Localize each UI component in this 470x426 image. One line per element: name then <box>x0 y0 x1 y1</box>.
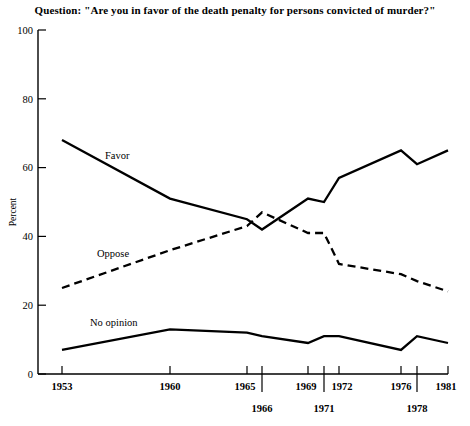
chart-canvas: 0 20 40 60 80 100 Percent 1953 1960 1965… <box>0 0 470 426</box>
y-tick-label-100: 100 <box>17 25 33 36</box>
x-tick-label-1971: 1971 <box>314 403 335 414</box>
x-tick-label-1965: 1965 <box>235 381 256 392</box>
x-tick-label-1976: 1976 <box>391 381 412 392</box>
y-tick-label-40: 40 <box>23 231 34 242</box>
series-label-favor: Favor <box>105 150 130 161</box>
y-axis-title: Percent <box>8 197 18 226</box>
x-tick-label-1960: 1960 <box>160 381 181 392</box>
x-axis-ticks-upper <box>62 366 448 374</box>
series-line-no-opinion <box>62 329 448 350</box>
x-tick-label-1978: 1978 <box>407 403 428 414</box>
y-tick-label-80: 80 <box>23 94 34 105</box>
x-tick-label-1972: 1972 <box>332 381 353 392</box>
x-tick-label-1966: 1966 <box>252 403 273 414</box>
chart-container: Question: "Are you in favor of the death… <box>0 0 470 426</box>
x-tick-label-1953: 1953 <box>52 381 73 392</box>
y-axis-ticks <box>38 30 46 374</box>
y-tick-label-60: 60 <box>23 162 34 173</box>
series-label-oppose: Oppose <box>97 248 129 259</box>
x-tick-label-1981: 1981 <box>436 381 457 392</box>
y-tick-label-0: 0 <box>28 369 33 380</box>
x-tick-label-1969: 1969 <box>296 381 317 392</box>
series-label-no-opinion: No opinion <box>90 317 138 328</box>
y-tick-label-20: 20 <box>23 300 34 311</box>
